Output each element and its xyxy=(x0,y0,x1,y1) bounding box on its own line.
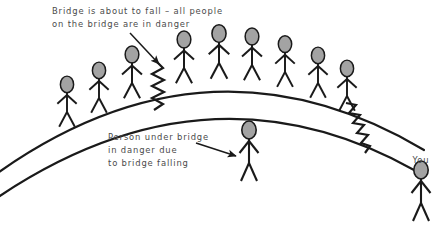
annotation-person-under-bridge: Person under bridge in danger due to bri… xyxy=(108,132,209,168)
diagram-canvas: Bridge is about to fall – all people on … xyxy=(0,0,447,227)
crack-right-zigzag xyxy=(346,103,370,153)
bridge-upper-arc xyxy=(0,92,424,180)
stick-figure-person-1 xyxy=(57,76,76,127)
stick-figure-person-7 xyxy=(275,36,295,87)
stick-figure-person-4 xyxy=(174,31,194,83)
annotation-person-under-line-2: in danger due xyxy=(108,145,177,155)
stick-figure-you xyxy=(412,161,431,221)
stick-figure-person-3 xyxy=(122,46,142,98)
stick-figure-person-5 xyxy=(209,25,230,79)
annotation-bridge-warning-line-2: on the bridge are in danger xyxy=(52,19,190,29)
head-icon xyxy=(242,121,256,139)
arrow-person-under-bridge xyxy=(196,143,236,156)
you-label: You xyxy=(412,155,430,165)
annotation-bridge-warning-line-1: Bridge is about to fall – all people xyxy=(52,6,223,16)
annotation-bridge-warning: Bridge is about to fall – all people on … xyxy=(52,6,223,29)
people-on-bridge xyxy=(57,25,356,127)
stick-figure-person-under-bridge xyxy=(240,121,259,181)
bridge-diagram-svg: Bridge is about to fall – all people on … xyxy=(0,0,447,227)
stick-figure-person-6 xyxy=(242,28,262,80)
annotation-person-under-line-1: Person under bridge xyxy=(108,132,209,142)
stick-figure-person-2 xyxy=(89,62,108,113)
crack-left-zigzag xyxy=(152,62,164,110)
annotation-person-under-line-3: to bridge falling xyxy=(108,158,189,168)
stick-figure-person-8 xyxy=(308,47,327,98)
